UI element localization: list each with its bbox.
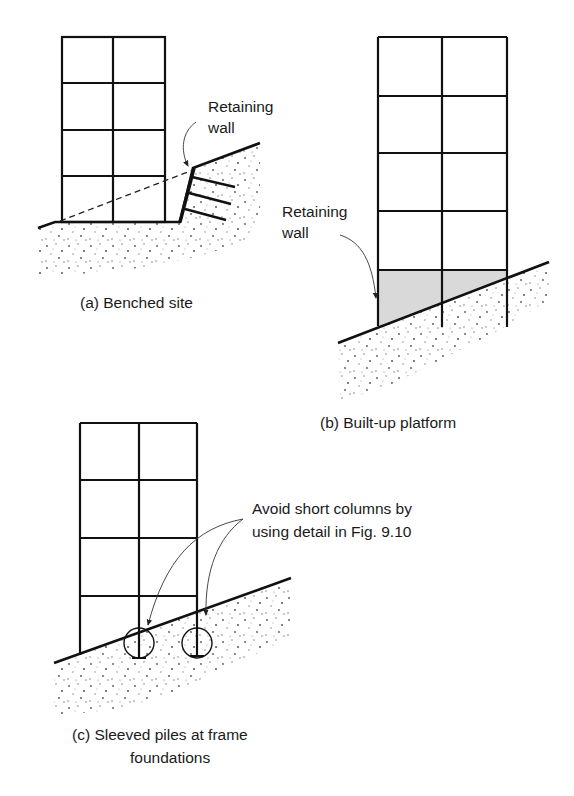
caption-c: (c) Sleeved piles at frame (72, 726, 248, 743)
short-columns-note-2: using detail in Fig. 9.10 (252, 523, 412, 540)
retaining-wall-leader (183, 122, 196, 166)
caption-a: (a) Benched site (80, 294, 193, 311)
retaining-wall-label-a: Retaining (208, 98, 274, 115)
building-frame (62, 37, 165, 222)
building-on-slope-diagram: Retaining wall (a) Benched site Retainin… (0, 0, 574, 796)
retaining-wall-label-b-2: wall (281, 224, 309, 241)
soil-hatch (54, 578, 291, 715)
retaining-wall-leader (340, 235, 376, 298)
panel-b-built-up-platform: Retaining wall (b) Built-up platform (281, 37, 549, 431)
panel-a-benched-site: Retaining wall (a) Benched site (38, 37, 274, 311)
soil-hatch (38, 143, 260, 274)
original-slope-dashed (60, 170, 193, 221)
caption-c-2: foundations (130, 749, 210, 766)
caption-b: (b) Built-up platform (320, 414, 456, 431)
panel-c-sleeved-piles: Avoid short columns by using detail in F… (54, 423, 412, 766)
retaining-wall-label-b: Retaining (282, 203, 348, 220)
short-columns-note: Avoid short columns by (252, 500, 412, 517)
retaining-wall-label-a-2: wall (207, 119, 235, 136)
